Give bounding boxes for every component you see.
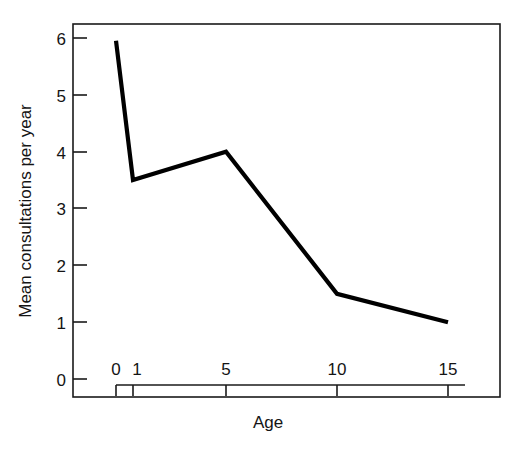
data-series-line <box>116 41 448 322</box>
x-tick-label-0: 0 <box>111 360 120 379</box>
y-axis-ticks <box>73 38 87 379</box>
y-tick-label-6: 6 <box>57 30 66 49</box>
y-tick-label-2: 2 <box>57 257 66 276</box>
x-tick-label-1: 1 <box>132 360 141 379</box>
x-tick-label-15: 15 <box>439 360 458 379</box>
x-tick-label-10: 10 <box>328 360 347 379</box>
y-tick-label-0: 0 <box>57 371 66 390</box>
x-axis-title: Age <box>253 413 283 432</box>
x-axis-tick-labels: 0 1 5 10 15 <box>111 360 457 379</box>
plot-frame <box>73 24 500 397</box>
y-tick-label-3: 3 <box>57 200 66 219</box>
y-tick-label-1: 1 <box>57 314 66 333</box>
x-tick-label-5: 5 <box>221 360 230 379</box>
y-tick-label-4: 4 <box>57 144 66 163</box>
line-chart: 6 5 4 3 2 1 0 0 1 5 10 15 Age <box>0 0 519 454</box>
y-axis-tick-labels: 6 5 4 3 2 1 0 <box>57 30 66 390</box>
chart-figure: 6 5 4 3 2 1 0 0 1 5 10 15 Age <box>0 0 519 454</box>
y-tick-label-5: 5 <box>57 87 66 106</box>
x-axis-spine <box>116 385 465 396</box>
y-axis-title: Mean consultations per year <box>16 104 35 318</box>
